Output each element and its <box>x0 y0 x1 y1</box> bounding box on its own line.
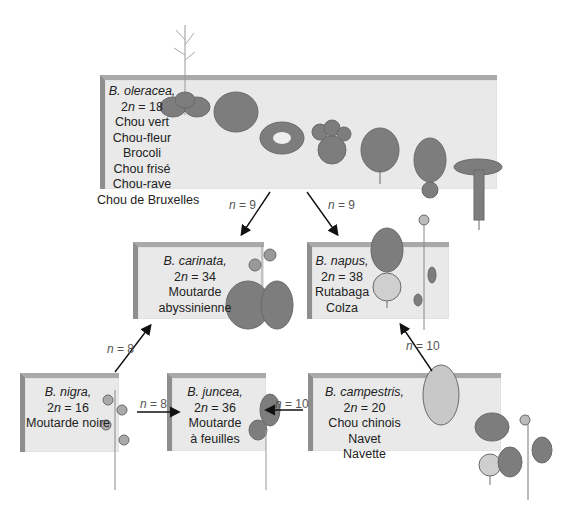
label-oleracea: B. oleracea, 2n = 18 Chou vert Chou-fleu… <box>103 84 181 208</box>
arrow-label-campestris-napus: n = 10 <box>406 339 440 353</box>
label-juncea: B. juncea, 2n = 36 Moutarde à feuilles <box>180 385 250 447</box>
label-nigra: B. nigra, 2n = 16 Moutarde noire <box>26 385 110 432</box>
common-name: Chou-rave <box>103 177 181 193</box>
species-name: B. campestris, <box>312 385 417 401</box>
label-campestris: B. campestris, 2n = 20 Chou chinois Nave… <box>312 385 417 463</box>
common-name: Colza <box>312 301 372 317</box>
chromosome-count: 2n = 36 <box>180 401 250 417</box>
common-name: Moutarde <box>150 285 240 301</box>
label-carinata: B. carinata, 2n = 34 Moutarde abyssinien… <box>150 254 240 316</box>
common-name: à feuilles <box>180 432 250 448</box>
species-name: B. juncea, <box>180 385 250 401</box>
species-name: B. nigra, <box>26 385 110 401</box>
common-name: Moutarde <box>180 416 250 432</box>
chromosome-count: 2n = 34 <box>150 270 240 286</box>
common-name: Navette <box>312 447 417 463</box>
common-name: Brocoli <box>103 146 181 162</box>
common-name: Chou frisé <box>103 162 181 178</box>
chromosome-count: 2n = 20 <box>312 401 417 417</box>
chromosome-count: 2n = 38 <box>312 270 372 286</box>
common-name: Chou chinois <box>312 416 417 432</box>
arrow-label-oleracea-napus: n = 9 <box>328 198 355 212</box>
common-name: Chou vert <box>103 115 181 131</box>
species-name: B. carinata, <box>150 254 240 270</box>
arrow-label-oleracea-carinata: n = 9 <box>229 198 256 212</box>
arrow-label-nigra-carinata: n = 8 <box>107 342 134 356</box>
species-name: B. oleracea, <box>103 84 181 100</box>
species-name: B. napus, <box>312 254 372 270</box>
common-name: Moutarde noire <box>26 416 110 432</box>
arrows-layer <box>0 0 578 509</box>
common-name: Chou de Bruxelles <box>97 193 181 209</box>
arrow-label-campestris-juncea: n = 10 <box>275 397 309 411</box>
common-name: Chou-fleur <box>103 131 181 147</box>
common-name: abyssinienne <box>150 301 240 317</box>
chromosome-count: 2n = 16 <box>26 401 110 417</box>
arrow-label-nigra-juncea: n = 8 <box>140 397 167 411</box>
label-napus: B. napus, 2n = 38 Rutabaga Colza <box>312 254 372 316</box>
common-name: Navet <box>312 432 417 448</box>
chromosome-count: 2n = 18 <box>103 100 181 116</box>
common-name: Rutabaga <box>312 285 372 301</box>
